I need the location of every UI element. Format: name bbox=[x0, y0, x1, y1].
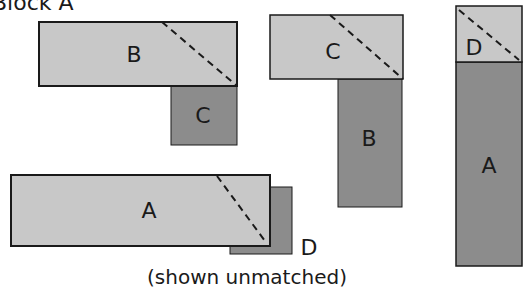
label-d: D bbox=[301, 235, 318, 260]
group-middle: C B bbox=[270, 15, 403, 207]
label-b: B bbox=[126, 42, 141, 67]
label-c: C bbox=[325, 39, 340, 64]
label-c: C bbox=[195, 103, 210, 128]
group-left-bottom: A D bbox=[11, 175, 317, 260]
group-right: D A bbox=[456, 6, 522, 266]
caption: (shown unmatched) bbox=[147, 265, 347, 289]
label-a: A bbox=[141, 198, 156, 223]
label-a: A bbox=[481, 153, 496, 178]
group-left-top: B C bbox=[39, 22, 237, 145]
label-d: D bbox=[466, 35, 483, 60]
label-b: B bbox=[361, 126, 376, 151]
piecing-diagram: B C C B D A A D bbox=[0, 0, 528, 292]
